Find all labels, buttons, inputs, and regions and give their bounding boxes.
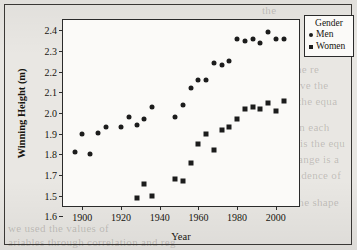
data-point-men bbox=[149, 104, 154, 109]
y-axis-tick-mark bbox=[59, 72, 63, 73]
data-point-men bbox=[250, 36, 255, 41]
y-axis-tick-mark bbox=[59, 216, 63, 217]
data-point-men bbox=[88, 152, 93, 157]
data-point-men bbox=[227, 59, 232, 64]
data-point-men bbox=[134, 123, 139, 128]
data-point-women bbox=[196, 142, 201, 147]
y-axis-tick-mark bbox=[59, 154, 63, 155]
data-point-men bbox=[103, 125, 108, 130]
data-point-men bbox=[180, 102, 185, 107]
legend-entry: Women bbox=[309, 41, 349, 53]
data-point-men bbox=[196, 77, 201, 82]
data-point-women bbox=[281, 98, 286, 103]
x-axis-tick-mark bbox=[82, 206, 83, 210]
y-axis-tick-mark bbox=[59, 51, 63, 52]
data-point-women bbox=[219, 127, 224, 132]
data-point-men bbox=[204, 77, 209, 82]
x-axis-tick-mark bbox=[237, 206, 238, 210]
data-point-men bbox=[173, 115, 178, 120]
x-axis-tick-label: 1900 bbox=[72, 212, 92, 223]
legend-entries: MenWomen bbox=[309, 29, 349, 53]
legend-title: Gender bbox=[309, 18, 349, 28]
y-axis-tick-mark bbox=[59, 134, 63, 135]
y-axis-tick-mark bbox=[59, 30, 63, 31]
legend-entry-label: Women bbox=[316, 41, 345, 53]
y-axis-tick-mark bbox=[59, 113, 63, 114]
y-axis-tick-label: 1.6 bbox=[45, 211, 58, 222]
x-axis-tick-mark bbox=[276, 206, 277, 210]
y-axis-tick-label: 1.7 bbox=[45, 170, 58, 181]
y-axis-tick-mark bbox=[59, 92, 63, 93]
y-axis-tick-label: 2.3 bbox=[45, 46, 58, 57]
data-point-women bbox=[235, 117, 240, 122]
plot-panel: 2.42.32.22.12.01.91.81.71.51.6 190019201… bbox=[62, 19, 300, 207]
y-axis-tick-label: 2.1 bbox=[45, 87, 58, 98]
data-point-women bbox=[180, 179, 185, 184]
scanned-figure-page: thehe. The reve thethe equain eachis the… bbox=[0, 0, 357, 250]
legend-entry: Men bbox=[309, 29, 349, 41]
data-point-men bbox=[211, 61, 216, 66]
x-axis-title: Year bbox=[62, 231, 300, 242]
data-point-women bbox=[188, 160, 193, 165]
data-point-women bbox=[204, 131, 209, 136]
y-axis-tick-label: 1.8 bbox=[45, 149, 58, 160]
plot-data-area bbox=[63, 20, 299, 206]
x-axis-tick-label: 1980 bbox=[227, 212, 247, 223]
data-point-women bbox=[273, 108, 278, 113]
x-axis-tick-label: 1960 bbox=[188, 212, 208, 223]
square-marker-icon bbox=[309, 45, 313, 49]
data-point-women bbox=[258, 106, 263, 111]
y-axis-tick-label: 2.2 bbox=[45, 66, 58, 77]
x-axis-tick-mark bbox=[198, 206, 199, 210]
x-axis-tick-label: 2000 bbox=[266, 212, 286, 223]
y-axis-title-text: Winning Height (m) bbox=[16, 68, 27, 158]
legend: Gender MenWomen bbox=[304, 15, 354, 57]
circle-marker-icon bbox=[309, 33, 313, 37]
data-point-women bbox=[142, 182, 147, 187]
data-point-women bbox=[227, 125, 232, 130]
y-axis-title: Winning Height (m) bbox=[14, 19, 28, 207]
y-axis-tick-label: 2.0 bbox=[45, 108, 58, 119]
data-point-women bbox=[173, 177, 178, 182]
data-point-men bbox=[188, 86, 193, 91]
x-axis-tick-mark bbox=[121, 206, 122, 210]
data-point-men bbox=[266, 30, 271, 35]
data-point-men bbox=[219, 63, 224, 68]
x-axis-tick-label: 1940 bbox=[150, 212, 170, 223]
data-point-men bbox=[273, 36, 278, 41]
y-axis-tick-mark bbox=[59, 196, 63, 197]
data-point-women bbox=[266, 100, 271, 105]
y-axis-tick-label: 1.9 bbox=[45, 128, 58, 139]
data-point-women bbox=[134, 195, 139, 200]
data-point-men bbox=[242, 38, 247, 43]
data-point-women bbox=[250, 104, 255, 109]
y-axis-tick-label: 1.5 bbox=[45, 190, 58, 201]
data-point-women bbox=[211, 148, 216, 153]
y-axis-tick-label: 2.4 bbox=[45, 25, 58, 36]
data-point-men bbox=[72, 150, 77, 155]
data-point-men bbox=[119, 125, 124, 130]
data-point-men bbox=[126, 115, 131, 120]
legend-entry-label: Men bbox=[316, 29, 333, 41]
data-point-men bbox=[80, 131, 85, 136]
data-point-men bbox=[95, 130, 100, 135]
data-point-women bbox=[149, 193, 154, 198]
data-point-men bbox=[142, 117, 147, 122]
data-point-men bbox=[235, 36, 240, 41]
figure-border: Winning Height (m) 2.42.32.22.12.01.91.8… bbox=[4, 4, 352, 245]
x-axis-tick-label: 1920 bbox=[111, 212, 131, 223]
y-axis-tick-mark bbox=[59, 175, 63, 176]
data-point-men bbox=[281, 36, 286, 41]
data-point-men bbox=[258, 40, 263, 45]
x-axis-tick-mark bbox=[160, 206, 161, 210]
data-point-women bbox=[242, 106, 247, 111]
